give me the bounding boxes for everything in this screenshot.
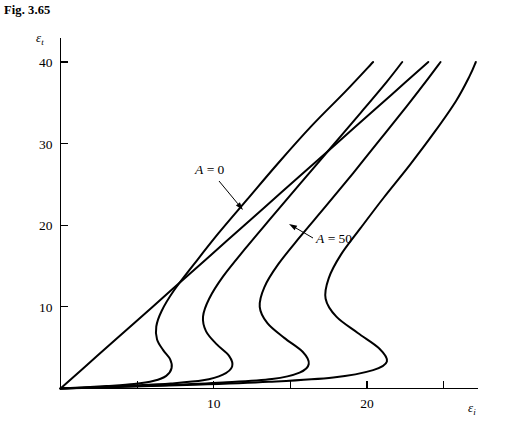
annotation-arrowhead-a-equals-50 — [289, 224, 297, 230]
y-tick-label: 40 — [39, 55, 53, 70]
x-axis-title: εi — [468, 400, 476, 417]
annotation-leader-a-equals-50 — [296, 228, 313, 238]
y-axis-title: εt — [36, 30, 44, 47]
x-tick-label: 20 — [360, 396, 374, 411]
y-ticks-group — [61, 62, 68, 307]
curve-50 — [61, 62, 476, 389]
plot-area: 10203040 1020 A = 0A = 50 εt εi — [0, 0, 506, 429]
y-tick-label: 30 — [39, 137, 53, 152]
curve-25 — [61, 62, 403, 389]
axes-group — [60, 38, 478, 389]
x-tick-label: 10 — [207, 396, 221, 411]
x-tick-labels-group: 1020 — [207, 396, 374, 411]
annotation-label-a-equals-50: A = 50 — [315, 231, 352, 246]
figure-container: Fig. 3.65 10203040 1020 A = 0A = 50 εt ε… — [0, 0, 506, 429]
curve-0 — [61, 62, 429, 389]
annotation-label-a-equals-0: A = 0 — [194, 162, 225, 177]
annotation-leader-a-equals-0 — [219, 181, 238, 204]
y-tick-label: 10 — [39, 300, 53, 315]
curves-group — [61, 62, 476, 389]
curve-37-5 — [61, 62, 441, 389]
curve-12-5 — [61, 62, 374, 389]
y-tick-labels-group: 10203040 — [39, 55, 53, 315]
y-tick-label: 20 — [39, 218, 53, 233]
